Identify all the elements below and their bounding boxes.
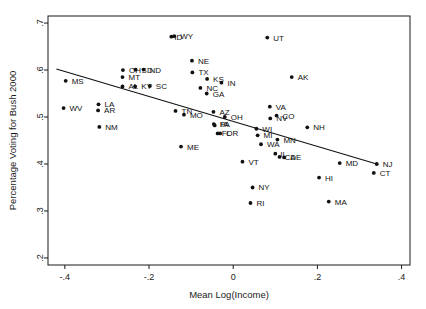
data-point-label: OH: [231, 113, 243, 122]
data-point-label: TX: [198, 68, 209, 77]
data-point-marker: [133, 85, 137, 89]
data-point-marker: [62, 106, 66, 110]
data-point-marker: [254, 127, 258, 131]
data-point-marker: [212, 110, 216, 114]
data-point-marker: [273, 152, 277, 156]
y-tick-label: .7: [35, 19, 45, 27]
data-point-marker: [134, 68, 138, 72]
data-point-marker: [278, 155, 282, 159]
x-tick-label: .2: [314, 272, 322, 282]
data-points-group: MSWVLAARNMOHSDNDMTALKYSCIDWYNETXKSINNCGA…: [62, 32, 393, 208]
data-point-label: NM: [105, 123, 118, 132]
data-point-label: RI: [256, 199, 264, 208]
data-point-marker: [121, 68, 125, 72]
data-point-label: NE: [198, 57, 209, 66]
data-point-marker: [259, 142, 263, 146]
y-tick-label: .4: [35, 160, 45, 168]
data-point-label: VA: [276, 103, 287, 112]
y-axis-title: Percentage Voting for Bush 2000: [7, 71, 18, 210]
data-point-marker: [213, 124, 217, 128]
data-point-label: HI: [325, 174, 333, 183]
data-point-label: MO: [190, 111, 203, 120]
data-point-marker: [205, 92, 209, 96]
data-point-label: CT: [380, 169, 391, 178]
data-point-marker: [97, 125, 101, 129]
data-point-marker: [179, 145, 183, 149]
data-point-label: WY: [180, 32, 194, 41]
data-point-label: MI: [264, 131, 273, 140]
data-point-marker: [375, 162, 379, 166]
data-point-marker: [96, 109, 100, 113]
data-point-label: ME: [187, 143, 199, 152]
data-point-marker: [172, 34, 176, 38]
data-point-label: WV: [70, 104, 84, 113]
data-point-marker: [223, 115, 227, 119]
data-point-marker: [205, 77, 209, 81]
data-point-marker: [372, 171, 376, 175]
data-point-label: AK: [298, 73, 309, 82]
data-point-marker: [268, 117, 272, 121]
x-tick-label: .4: [398, 272, 406, 282]
data-point-marker: [121, 85, 125, 89]
data-point-marker: [275, 114, 279, 118]
data-point-label: CO: [283, 112, 295, 121]
data-point-marker: [256, 133, 260, 137]
data-point-label: MA: [335, 198, 348, 207]
y-tick-label: .5: [35, 113, 45, 121]
data-point-label: NY: [259, 183, 271, 192]
data-point-marker: [251, 186, 255, 190]
data-point-label: UT: [273, 34, 284, 43]
x-tick-label: -.2: [144, 272, 155, 282]
data-point-marker: [220, 81, 224, 85]
data-point-marker: [218, 132, 222, 136]
x-tick-label: -.4: [60, 272, 71, 282]
data-point-label: NH: [313, 123, 325, 132]
data-point-marker: [190, 59, 194, 63]
data-point-label: GA: [213, 90, 225, 99]
data-point-label: ND: [150, 66, 162, 75]
data-point-label: MD: [346, 159, 359, 168]
chart-canvas: -.4-.20.2.4.2.3.4.5.6.7Mean Log(Income)P…: [0, 0, 426, 309]
data-point-marker: [142, 68, 146, 72]
data-point-label: MN: [283, 136, 296, 145]
data-point-label: OR: [226, 129, 238, 138]
data-point-label: SC: [156, 82, 167, 91]
data-point-marker: [265, 36, 269, 40]
data-point-marker: [121, 75, 125, 79]
y-tick-label: .2: [35, 254, 45, 262]
data-point-marker: [317, 176, 321, 180]
data-point-marker: [290, 75, 294, 79]
data-point-label: IN: [227, 79, 235, 88]
data-point-marker: [148, 84, 152, 88]
data-point-marker: [190, 70, 194, 74]
data-point-marker: [198, 86, 202, 90]
x-axis-title: Mean Log(Income): [189, 289, 269, 300]
data-point-marker: [174, 109, 178, 113]
data-point-marker: [268, 105, 272, 109]
data-point-marker: [276, 138, 280, 142]
data-point-marker: [327, 200, 331, 204]
data-point-label: NJ: [383, 160, 393, 169]
data-point-marker: [182, 113, 186, 117]
y-tick-label: .3: [35, 207, 45, 215]
data-point-label: WA: [267, 140, 280, 149]
plot-frame: [48, 16, 410, 265]
data-point-marker: [64, 79, 68, 83]
data-point-marker: [305, 125, 309, 129]
data-point-label: AR: [104, 106, 115, 115]
scatter-plot-figure: -.4-.20.2.4.2.3.4.5.6.7Mean Log(Income)P…: [0, 0, 426, 309]
x-tick-label: 0: [231, 272, 236, 282]
data-point-marker: [249, 201, 253, 205]
data-point-marker: [338, 161, 342, 165]
data-point-marker: [241, 160, 245, 164]
y-tick-label: .6: [35, 66, 45, 74]
data-point-label: MT: [129, 73, 141, 82]
data-point-label: DE: [290, 153, 301, 162]
data-point-marker: [282, 156, 286, 160]
data-point-label: IA: [221, 120, 229, 129]
data-point-label: MS: [72, 77, 84, 86]
data-point-marker: [97, 102, 101, 106]
data-point-label: VT: [248, 158, 258, 167]
